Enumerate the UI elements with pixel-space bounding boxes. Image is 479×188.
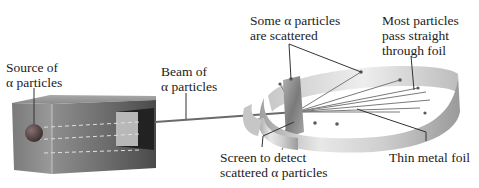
label-screen: Screen to detect scattered α particles [220,150,328,180]
label-scattered: Some α particles are scattered [250,13,340,43]
alpha-beam-line [155,112,296,122]
alpha-source-sphere [25,124,43,142]
label-source: Source of α particles [6,60,62,90]
label-foil: Thin metal foil [389,150,470,165]
detector-ring [240,66,460,153]
label-most-pass: Most particles pass straight through foi… [382,13,459,58]
rutherford-diagram: Source of α particles Beam of α particle… [0,0,479,188]
label-beam: Beam of α particles [161,64,217,94]
